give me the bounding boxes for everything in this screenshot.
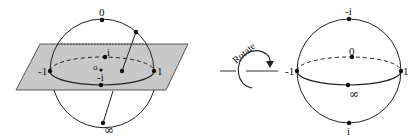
point-neg-one <box>295 69 299 73</box>
point-projected <box>120 69 124 73</box>
label-infinity: ∞ <box>104 123 114 137</box>
label-neg-one: -1 <box>285 65 294 77</box>
point-neg-i <box>347 17 351 21</box>
right-sphere-figure: -i 0 -1 1 ∞ i <box>285 5 409 137</box>
point-zero <box>100 18 104 22</box>
rotate-indicator: Rotate <box>220 40 278 88</box>
label-one: 1 <box>403 65 409 77</box>
riemann-sphere-diagram: 0 i -1 1 o -i ∞ Rotate -i 0 -1 1 ∞ i <box>0 0 420 140</box>
equator-back-dashed <box>297 57 401 71</box>
label-neg-i: -i <box>97 71 104 83</box>
point-neg-i <box>99 83 103 87</box>
label-neg-i: -i <box>345 5 352 17</box>
label-one: 1 <box>157 65 163 77</box>
left-sphere-figure: 0 i -1 1 o -i ∞ <box>16 6 188 137</box>
sphere-outline <box>297 19 401 123</box>
projection-line-lower <box>103 91 113 123</box>
label-i: i <box>347 125 350 137</box>
label-zero: 0 <box>99 6 105 18</box>
label-neg-one: -1 <box>38 65 47 77</box>
rotate-arrowhead-icon <box>266 61 274 68</box>
label-i: i <box>107 46 110 58</box>
label-zero: 0 <box>349 45 355 57</box>
rotate-label: Rotate <box>230 40 257 66</box>
equator-front <box>297 71 401 85</box>
point-one <box>152 69 156 73</box>
point-neg-one <box>48 69 52 73</box>
label-infinity: ∞ <box>349 87 359 101</box>
point-sphere-upper <box>134 30 138 34</box>
